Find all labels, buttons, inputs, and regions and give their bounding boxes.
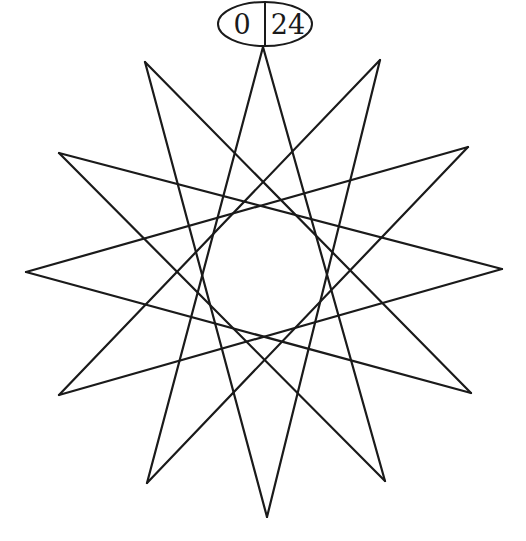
star-edge — [267, 60, 380, 517]
root-node: 0 24 — [218, 2, 312, 46]
star-edge — [147, 147, 468, 483]
star-polygon-diagram: 0 24 — [0, 0, 526, 541]
root-node-right-label: 24 — [271, 9, 305, 40]
star-edge — [145, 62, 471, 393]
root-node-left-label: 0 — [233, 9, 250, 40]
star-edge — [59, 153, 502, 269]
star-edge — [145, 62, 267, 517]
star-edges — [26, 47, 502, 517]
star-edge — [147, 47, 263, 483]
star-edge — [59, 60, 380, 395]
star-edge — [26, 272, 471, 393]
